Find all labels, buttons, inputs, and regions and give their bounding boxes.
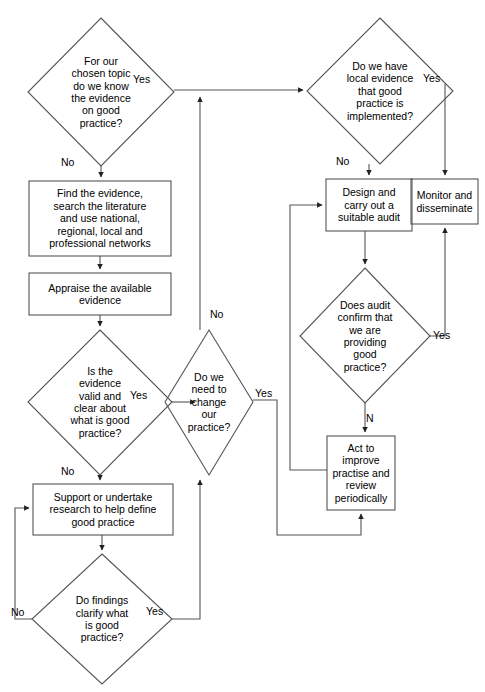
shape-q-findings-clarify [32, 554, 172, 684]
shape-box-appraise [29, 273, 171, 315]
shape-q-know-evidence [28, 18, 174, 166]
edge-label-yes-know-evidence: Yes [133, 74, 150, 85]
edge-label-yes-local-evidence: Yes [423, 73, 440, 84]
edge-label-yes-findings-clarify: Yes [146, 606, 163, 617]
shape-box-design-audit [326, 179, 412, 231]
shape-q-audit-confirm [300, 268, 430, 403]
edge-label-no-need-change: No [210, 309, 223, 320]
edge-label-no-know-evidence: No [61, 157, 74, 168]
edge-act-to-audit-loop [290, 205, 327, 470]
shape-box-act-improve [327, 436, 395, 510]
flowchart-connectors [0, 0, 485, 692]
shape-q-evidence-valid [28, 330, 172, 475]
shape-box-support-research [33, 484, 173, 535]
edge-label-yes-audit-confirm: Yes [433, 330, 450, 341]
edge-label-no-local-evidence: No [336, 156, 349, 167]
shape-q-local-evidence [307, 18, 453, 164]
edge-label-no-evidence-valid: No [61, 466, 74, 477]
edge-change-yes-to-act [253, 400, 361, 535]
edge-confirm-yes-to-monitor [430, 228, 445, 336]
edge-findings-no-loop [15, 508, 32, 619]
edge-label-no-findings-clarify: No [11, 607, 24, 618]
flowchart-canvas: For our chosen topic do we know the evid… [0, 0, 485, 692]
edge-label-yes-evidence-valid: Yes [130, 390, 147, 401]
edge-label-n-audit-confirm: N [366, 413, 374, 424]
shape-box-monitor [411, 179, 478, 224]
edge-label-yes-need-change: Yes [255, 388, 272, 399]
edge-findings-yes-to-change [172, 480, 200, 619]
shape-box-find-evidence [29, 181, 171, 256]
